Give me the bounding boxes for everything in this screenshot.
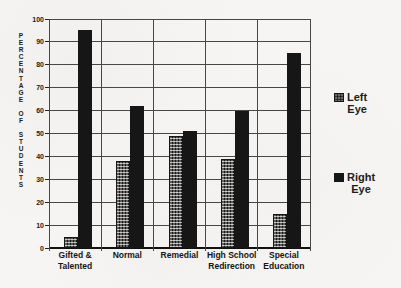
bar-left-eye-special-education: [273, 214, 287, 248]
bar-left-eye-high-school-redirection: [221, 159, 235, 248]
y-axis-title-letter: F: [19, 117, 23, 124]
legend-label-right-line2: Eye: [347, 183, 375, 195]
legend-label-left-eye: Left Eye: [347, 91, 367, 115]
bar-left-eye-normal: [116, 161, 130, 248]
bar-right-eye-special-education: [287, 53, 301, 248]
y-axis-line: [49, 19, 50, 251]
legend-label-right-line1: Right: [347, 171, 375, 183]
y-axis-title-letter: N: [19, 167, 24, 174]
gridline-vertical: [310, 19, 311, 251]
y-axis-title-letter: C: [19, 53, 24, 60]
legend-item-left-eye: Left Eye: [334, 91, 367, 115]
y-tick-label: 80: [18, 60, 44, 69]
gridline-vertical: [101, 19, 102, 251]
bar-left-eye-gifted-talented: [64, 237, 78, 248]
gridline-horizontal: [49, 19, 310, 20]
left-eye-swatch-icon: [334, 93, 344, 102]
legend-label-left-line2: Eye: [347, 103, 367, 115]
y-tick-label: 10: [18, 221, 44, 230]
y-tick-label: 50: [18, 129, 44, 138]
y-tick-label: 60: [18, 106, 44, 115]
x-category-label-special-education: SpecialEducation: [250, 250, 318, 271]
y-tick-label: 20: [18, 198, 44, 207]
legend-label-left-line1: Left: [347, 91, 367, 103]
y-axis-title-letter: R: [19, 46, 24, 53]
bar-right-eye-normal: [130, 106, 144, 248]
legend-label-right-eye: Right Eye: [347, 171, 375, 195]
right-eye-swatch-icon: [334, 173, 344, 182]
gridline-vertical: [205, 19, 206, 251]
bar-chart: PERCENTAGEOFSTUDENTS Left Eye Right Eye …: [0, 0, 401, 288]
bar-right-eye-high-school-redirection: [235, 111, 249, 248]
gridline-vertical: [153, 19, 154, 251]
x-category-label-line: Special: [250, 250, 318, 261]
scanned-chart-page: PERCENTAGEOFSTUDENTS Left Eye Right Eye …: [0, 0, 401, 288]
y-tick-label: 40: [18, 152, 44, 161]
x-category-label-line: Talented: [41, 261, 109, 272]
y-axis-title-letter: E: [19, 96, 23, 103]
gridline-vertical: [257, 19, 258, 251]
bar-right-eye-remedial: [183, 131, 197, 248]
y-tick-label: 90: [18, 37, 44, 46]
y-axis-title-letter: T: [19, 75, 23, 82]
bar-right-eye-gifted-talented: [78, 30, 92, 248]
x-category-label-line: Education: [250, 261, 318, 272]
y-tick-label: 70: [18, 83, 44, 92]
y-tick-label: 100: [18, 15, 44, 24]
bar-left-eye-remedial: [169, 136, 183, 248]
y-tick-label: 30: [18, 175, 44, 184]
legend-item-right-eye: Right Eye: [334, 171, 375, 195]
y-axis-title-letter: T: [19, 138, 23, 145]
